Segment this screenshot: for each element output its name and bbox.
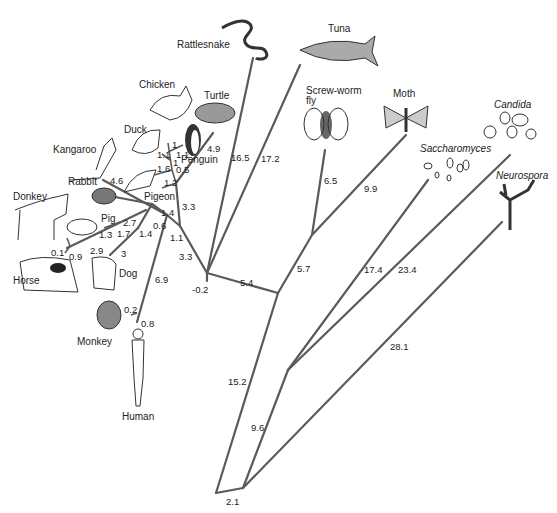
branch-length-kangaroo: 4.6: [110, 176, 123, 186]
branch-length-root: 2.1: [226, 497, 239, 507]
pigeon-icon: [124, 170, 156, 192]
branch-length-turtle: 4.9: [207, 144, 220, 154]
taxon-label-screwworm-fly: fly: [306, 96, 316, 106]
branch-length-dog: 3: [121, 249, 126, 259]
taxon-label-turtle: Turtle: [204, 91, 229, 101]
branch-length-animals-root: 15.2: [228, 377, 247, 387]
branch-length-human: 0.8: [141, 319, 154, 329]
taxon-label-neurospora: Neurospora: [496, 171, 548, 181]
candida-icon: [484, 112, 536, 139]
branch-length-ungulate-b: 1.4: [139, 229, 152, 239]
branch-length-monkey: 0.2: [124, 305, 137, 315]
branch-length-rabbit-node: 1.4: [161, 208, 174, 218]
pig-icon: [67, 219, 97, 235]
amniote-stem-branch: [180, 226, 207, 273]
taxon-label-human: Human: [122, 412, 154, 422]
branch-length-pigeon-b: 1.2: [164, 178, 177, 188]
branch-length-horse-branch: 2.9: [90, 246, 103, 256]
taxon-label-candida: Candida: [494, 100, 531, 110]
screwworm-fly-icon: [304, 108, 348, 140]
branch-length-mam-inner: 0.6: [153, 221, 166, 231]
branch-length-insects-stem: 5.7: [297, 264, 310, 274]
root-branch: [216, 488, 243, 493]
branch-length-duck: 1.1: [157, 150, 170, 160]
monkey-icon: [97, 301, 121, 329]
neurospora-icon: [500, 180, 534, 230]
branch-length-neurospora: 28.1: [390, 342, 409, 352]
branch-length-placental-a: 1.1: [170, 233, 183, 243]
chicken-icon: [150, 86, 192, 120]
branch-length-rattlesnake: 16.5: [231, 153, 250, 163]
saccharomyces-icon: [424, 158, 469, 181]
donkey-branch: [67, 238, 70, 246]
taxon-label-rattlesnake: Rattlesnake: [177, 40, 230, 50]
dog-icon: [92, 257, 116, 290]
taxon-label-saccharomyces: Saccharomyces: [420, 144, 491, 154]
branch-length-tuna: 17.2: [261, 154, 280, 164]
taxon-label-donkey: Donkey: [13, 192, 47, 202]
branch-length-moth: 9.9: [364, 184, 377, 194]
branch-length-mammal-stem: 3.3: [179, 252, 192, 262]
branch-length-vertebrate-node: -0.2: [192, 285, 208, 295]
branch-length-pig-branch: 1.3: [99, 230, 112, 240]
branch-length-screwworm: 6.5: [324, 176, 337, 186]
taxon-label-monkey: Monkey: [77, 337, 112, 347]
human-icon: [132, 329, 144, 406]
turtle-icon: [195, 103, 235, 123]
branch-length-birds-stem: 3.3: [182, 202, 195, 212]
branch-length-fungi-stem: 9.6: [251, 423, 264, 433]
carnivore-branch: [138, 204, 152, 228]
branch-length-candida: 23.4: [398, 265, 417, 275]
taxon-label-chicken: Chicken: [139, 80, 175, 90]
rabbit-icon: [92, 188, 116, 204]
birds-stem-branch: [176, 183, 180, 226]
taxon-label-dog: Dog: [119, 269, 137, 279]
branch-length-saccharomyces: 17.4: [364, 265, 383, 275]
taxon-label-pig: Pig: [101, 214, 115, 224]
taxon-label-tuna: Tuna: [328, 24, 350, 34]
branch-length-horse: 0.9: [69, 252, 82, 262]
taxon-label-kangaroo: Kangaroo: [53, 145, 96, 155]
branch-length-primate-stem: 6.9: [155, 275, 168, 285]
taxon-label-rabbit: Rabbit: [68, 177, 97, 187]
neurospora-branch: [243, 222, 502, 488]
branch-length-donkey: 0.1: [51, 248, 64, 258]
taxon-label-duck: Duck: [124, 125, 147, 135]
candida-branch: [288, 155, 510, 370]
taxon-label-horse: Horse: [13, 276, 40, 286]
branch-length-ungulate-a: 1.7: [117, 229, 130, 239]
branch-length-animal-stem: 5.4: [240, 278, 253, 288]
branch-length-pigeon-a: 1.6: [157, 164, 170, 174]
moth-icon: [384, 106, 428, 132]
taxon-label-pigeon: Pigeon: [144, 192, 175, 202]
branch-length-pig: 2.7: [123, 218, 136, 228]
tuna-icon: [300, 36, 378, 66]
branch-length-bird-inner: 0.5: [176, 165, 189, 175]
phylogenetic-tree: [0, 0, 557, 513]
taxon-label-moth: Moth: [393, 89, 415, 99]
